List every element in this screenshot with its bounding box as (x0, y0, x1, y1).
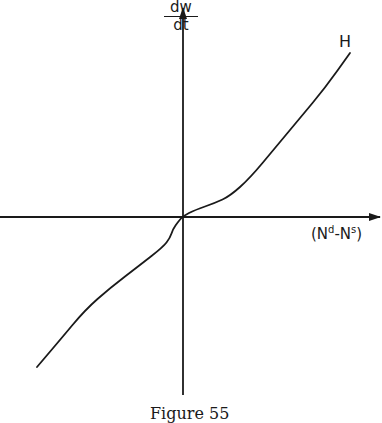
y-axis-label: dw dt (164, 0, 198, 33)
y-axis-numerator: dw (164, 0, 198, 17)
curve-label-h: H (339, 32, 351, 51)
figure-caption: Figure 55 (150, 404, 229, 423)
y-axis-denominator: dt (164, 17, 198, 33)
x-label-close: ) (356, 225, 362, 243)
x-axis-label: (Nd-Ns) (311, 224, 362, 243)
x-label-open: (N (311, 225, 328, 243)
curve-h (37, 53, 350, 367)
x-label-dash: -N (334, 225, 351, 243)
